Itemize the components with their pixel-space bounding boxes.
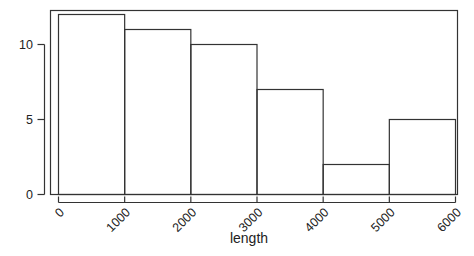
y-tick-label-0: 0 — [26, 188, 33, 202]
x-axis-title: length — [230, 230, 268, 246]
y-tick-label-5: 5 — [26, 113, 33, 127]
histogram-figure: 0510 0100020003000400050006000 length — [0, 0, 474, 256]
figure-background — [0, 0, 474, 256]
y-tick-label-10: 10 — [19, 38, 33, 52]
histogram-svg: 0510 0100020003000400050006000 length — [0, 0, 474, 256]
